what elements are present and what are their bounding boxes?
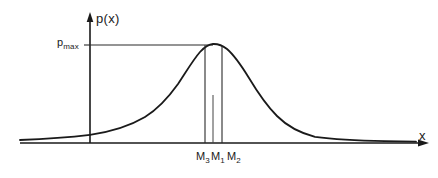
marker-label-m1-subscript: 1: [220, 156, 224, 165]
marker-label-m1-main: M: [211, 150, 220, 162]
density-curve: [20, 44, 416, 142]
x-axis-label: x: [419, 129, 426, 142]
pmax-label-subscript: max: [63, 42, 79, 51]
figure-root: p(x) x pmax M3 M1 M2: [0, 0, 438, 178]
marker-label-m1: M1: [211, 150, 225, 165]
marker-label-m2-main: M: [227, 150, 236, 162]
marker-label-m3-subscript: 3: [205, 156, 209, 165]
marker-label-m3: M3: [196, 150, 210, 165]
y-axis-arrowhead: [87, 12, 94, 22]
marker-label-m2: M2: [227, 150, 241, 165]
pmax-label: pmax: [57, 37, 79, 51]
marker-label-m3-main: M: [196, 150, 205, 162]
marker-label-m2-subscript: 2: [236, 156, 240, 165]
y-axis-label: p(x): [96, 12, 120, 25]
